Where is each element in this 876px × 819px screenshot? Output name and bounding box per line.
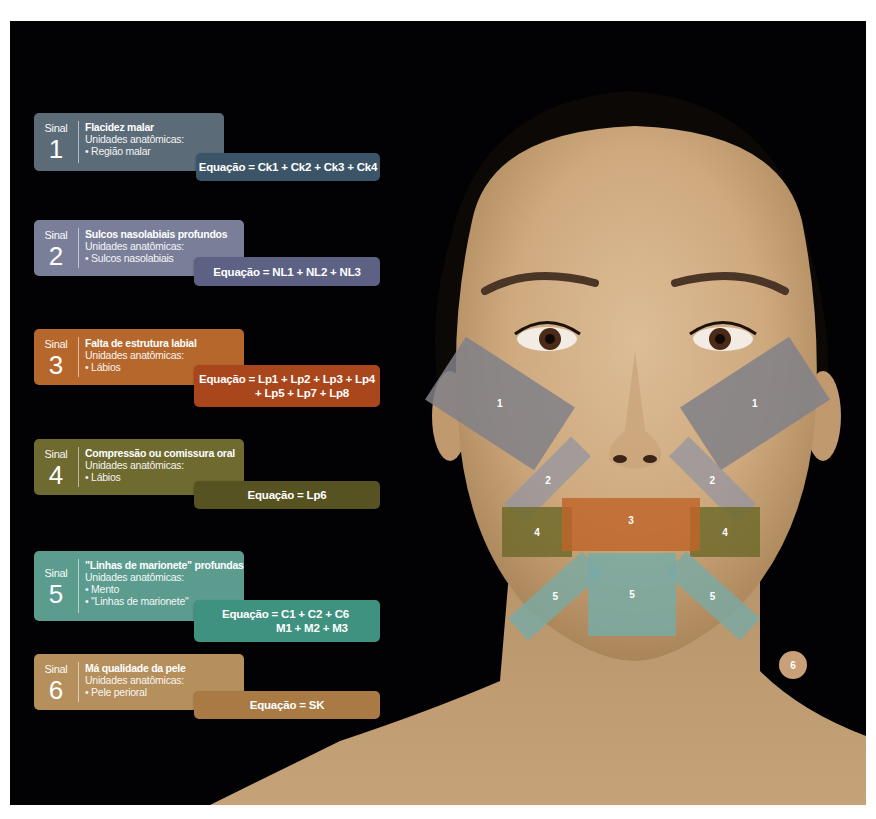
sinal-label: Sinal <box>34 122 78 134</box>
signal-number: 1 <box>34 136 78 162</box>
equation-box: Equação = Lp1 + Lp2 + Lp3 + Lp4 + Lp5 + … <box>194 365 380 407</box>
commissure-right-overlay: 4 <box>690 507 760 557</box>
signal-title: Má qualidade da pele <box>85 662 186 674</box>
equation-line: Equação = C1 + C2 + C6 <box>194 607 380 621</box>
equation-line: + Lp5 + Lp7 + Lp8 <box>194 386 380 400</box>
divider <box>78 337 79 377</box>
signal-title: "Linhas de marionete" profundas <box>85 559 244 571</box>
unit-item: • Pele perioral <box>85 686 186 698</box>
signal-title: Falta de estrutura labial <box>85 337 197 349</box>
overlay-label: 2 <box>545 475 551 486</box>
signal-title: Flacidez malar <box>85 121 184 133</box>
equation-line: Equação = Ck1 + Ck2 + Ck3 + Ck4 <box>196 161 380 173</box>
divider <box>78 228 79 268</box>
overlay-label: 5 <box>629 589 635 600</box>
overlay-label: 1 <box>497 398 503 409</box>
units-label: Unidades anatômicas: <box>85 674 186 686</box>
sinal-label: Sinal <box>34 229 78 241</box>
signal-number: 2 <box>34 243 78 269</box>
chin-overlay: 5 <box>588 553 676 636</box>
divider <box>78 662 79 702</box>
units-label: Unidades anatômicas: <box>85 349 197 361</box>
overlay-label: 4 <box>534 527 540 538</box>
overlay-label: 2 <box>710 475 716 486</box>
signal-number: 5 <box>34 581 78 607</box>
equation-box: Equação = Lp6 <box>194 481 380 509</box>
equation-line: Equação = Lp6 <box>194 489 380 501</box>
overlay-label: 5 <box>710 591 716 602</box>
divider <box>78 121 79 163</box>
units-label: Unidades anatômicas: <box>85 459 235 471</box>
units-label: Unidades anatômicas: <box>85 133 184 145</box>
lips-overlay: 3 <box>562 498 700 551</box>
signal-number: 6 <box>34 677 78 703</box>
signal-title: Compressão ou comissura oral <box>85 447 235 459</box>
overlay-label: 1 <box>752 398 758 409</box>
equation-box: Equação = SK <box>194 691 380 719</box>
equation-box: Equação = C1 + C2 + C6 M1 + M2 + M3 <box>194 600 380 642</box>
signal-title: Sulcos nasolabiais profundos <box>85 228 227 240</box>
overlay-label: 5 <box>552 591 558 602</box>
equation-box: Equação = Ck1 + Ck2 + Ck3 + Ck4 <box>196 153 380 181</box>
sinal-label: Sinal <box>34 448 78 460</box>
sinal-label: Sinal <box>34 663 78 675</box>
units-label: Unidades anatômicas: <box>85 571 244 583</box>
overlay-label: 4 <box>722 527 728 538</box>
illustration-panel: 1 1 2 2 4 4 3 5 5 5 6 Sinal 1 <box>10 21 866 805</box>
signal-number: 3 <box>34 352 78 378</box>
unit-item: • Região malar <box>85 145 184 157</box>
equation-box: Equação = NL1 + NL2 + NL3 <box>194 257 380 286</box>
sinal-label: Sinal <box>34 338 78 350</box>
divider <box>78 559 79 613</box>
badge-label: 6 <box>790 660 796 671</box>
units-label: Unidades anatômicas: <box>85 240 227 252</box>
divider <box>78 447 79 487</box>
unit-item: • Lábios <box>85 361 197 373</box>
sinal-label: Sinal <box>34 567 78 579</box>
skin-quality-badge: 6 <box>779 651 807 679</box>
equation-line: Equação = SK <box>194 699 380 711</box>
equation-line: M1 + M2 + M3 <box>194 621 380 635</box>
equation-line: Equação = NL1 + NL2 + NL3 <box>194 266 380 278</box>
overlay-label: 3 <box>628 515 634 526</box>
signal-number: 4 <box>34 462 78 488</box>
unit-item: • Mento <box>85 583 244 595</box>
equation-line: Equação = Lp1 + Lp2 + Lp3 + Lp4 <box>194 372 380 386</box>
